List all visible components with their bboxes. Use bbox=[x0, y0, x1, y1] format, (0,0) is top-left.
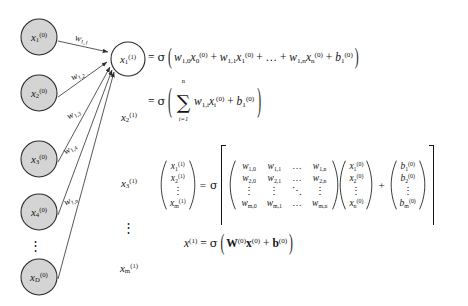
cell-x1-in: x1(0) bbox=[346, 160, 366, 173]
cell-vdots-coln: ⋮ bbox=[307, 185, 332, 198]
paren-left-bias bbox=[390, 160, 397, 210]
paren-left-lhs bbox=[160, 160, 167, 210]
cell-w-m-0: wm,0 bbox=[236, 198, 261, 211]
input-vector: x1(0) x2(0) ⋮ xn(0) bbox=[339, 160, 373, 210]
paren-right-bias bbox=[419, 160, 426, 210]
table-row: bm(0) bbox=[397, 198, 419, 211]
cell-vdots-col2: ⋮ bbox=[262, 185, 287, 198]
cell-x2-in: x2(0) bbox=[346, 173, 366, 186]
cell-w-m-1: wm,1 bbox=[262, 198, 287, 211]
edge-x4-to-h1 bbox=[58, 70, 112, 215]
cell-vdots-bias: ⋮ bbox=[397, 185, 419, 198]
edge-xD-to-h1 bbox=[58, 72, 114, 279]
cell-w-1-n: w1,n bbox=[307, 160, 332, 173]
cell-xm-out: xm(1) bbox=[167, 198, 189, 211]
node-label-x2-input: x2(0) bbox=[31, 88, 47, 99]
neural-network-figure: x1(0) x2(0) x3(0) x4(0) xD(0) ⋮ x1(1) x2… bbox=[0, 0, 468, 306]
table-row: ⋮ bbox=[346, 185, 366, 198]
weight-matrix-table: w1,0 w1,1 … w1,n w2,0 w2,1 … w2,n ⋮ ⋮ bbox=[236, 160, 332, 210]
outer-bracket-right bbox=[428, 145, 434, 225]
cell-x1-out: x1(1) bbox=[167, 160, 189, 173]
table-row: wm,0 wm,1 … wm,n bbox=[236, 198, 332, 211]
cell-x2-out: x2(1) bbox=[167, 173, 189, 186]
cell-w-2-n: w2,n bbox=[307, 173, 332, 186]
cell-w-2-1: w2,1 bbox=[262, 173, 287, 186]
table-row: w2,0 w2,1 … w2,n bbox=[236, 173, 332, 186]
cell-w-1-0: w1,0 bbox=[236, 160, 261, 173]
table-row: b1(0) bbox=[397, 160, 419, 173]
input-vector-table: x1(0) x2(0) ⋮ xn(0) bbox=[346, 160, 366, 210]
cell-vdots-col1: ⋮ bbox=[236, 185, 261, 198]
table-row: ⋮ bbox=[167, 185, 189, 198]
cell-w-1-1: w1,1 bbox=[262, 160, 287, 173]
cell-hdots-rowm: … bbox=[287, 198, 307, 211]
node-label-x3-output: x3(1) bbox=[121, 178, 137, 189]
input-layer-ellipsis: ⋮ bbox=[29, 238, 42, 254]
equation-scalar-line-1: = σ (w1,0x0(0) + w1,1x1(0) + … + w1,nxn(… bbox=[148, 52, 359, 64]
node-label-x1-output: x1(1) bbox=[120, 54, 136, 65]
node-label-x4-input: x4(0) bbox=[31, 207, 47, 218]
edge-x2-to-h1 bbox=[58, 62, 107, 97]
cell-hdots-row2: … bbox=[287, 173, 307, 186]
paren-left-weights bbox=[229, 160, 236, 210]
lhs-vector-table: x1(1) x2(1) ⋮ xm(1) bbox=[167, 160, 189, 210]
node-label-x2-output: x2(1) bbox=[121, 112, 137, 123]
paren-right-lhs bbox=[189, 160, 196, 210]
summation-operator: n ∑ i=1 bbox=[175, 93, 192, 112]
paren-right-weights bbox=[332, 160, 339, 210]
table-row: x2(0) bbox=[346, 173, 366, 186]
table-row: x2(1) bbox=[167, 173, 189, 186]
bias-vector-table: b1(0) b2(0) ⋮ bm(0) bbox=[397, 160, 419, 210]
equation-compact-line: x(1) = σ (W(0)x(0) + b(0)) bbox=[184, 238, 293, 250]
node-label-x3-input: x3(0) bbox=[31, 154, 47, 165]
output-layer-ellipsis: ⋮ bbox=[122, 220, 135, 236]
matrix-plus-sign: + bbox=[373, 180, 389, 191]
table-row: x1(0) bbox=[346, 160, 366, 173]
cell-vdots-lhs: ⋮ bbox=[167, 185, 189, 198]
table-row: xm(1) bbox=[167, 198, 189, 211]
cell-bm: bm(0) bbox=[397, 198, 419, 211]
weight-matrix: w1,0 w1,1 … w1,n w2,0 w2,1 … w2,n ⋮ ⋮ bbox=[229, 160, 339, 210]
table-row: w1,0 w1,1 … w1,n bbox=[236, 160, 332, 173]
cell-b2: b2(0) bbox=[397, 173, 419, 186]
table-row: x1(1) bbox=[167, 160, 189, 173]
cell-w-2-0: w2,0 bbox=[236, 173, 261, 186]
outer-bracket-left bbox=[221, 145, 227, 225]
node-label-xD-input: xD(0) bbox=[30, 272, 48, 283]
matrix-equals-sign: = bbox=[196, 180, 210, 191]
cell-ddots: ⋱ bbox=[287, 185, 307, 198]
cell-w-m-n: wm,n bbox=[307, 198, 332, 211]
table-row: xn(0) bbox=[346, 198, 366, 211]
bias-vector: b1(0) b2(0) ⋮ bm(0) bbox=[390, 160, 426, 210]
table-row: b2(0) bbox=[397, 173, 419, 186]
paren-left-input bbox=[339, 160, 346, 210]
node-label-x1-input: x1(0) bbox=[31, 32, 47, 43]
table-row: ⋮ ⋮ ⋱ ⋮ bbox=[236, 185, 332, 198]
table-row: ⋮ bbox=[397, 185, 419, 198]
paren-right-input bbox=[366, 160, 373, 210]
node-label-xm-output: xm(1) bbox=[120, 263, 138, 274]
cell-vdots-input: ⋮ bbox=[346, 185, 366, 198]
cell-b1: b1(0) bbox=[397, 160, 419, 173]
cell-hdots-row1: … bbox=[287, 160, 307, 173]
matrix-sigma: σ bbox=[210, 180, 218, 191]
equation-scalar-line-2: = σ ( n ∑ i=1 w1,ixi(0) + b1(0)) bbox=[148, 93, 261, 112]
cell-xn-in: xn(0) bbox=[346, 198, 366, 211]
equation-matrix-line: x1(1) x2(1) ⋮ xm(1) = σ bbox=[160, 145, 434, 225]
lhs-activation-vector: x1(1) x2(1) ⋮ xm(1) bbox=[160, 160, 196, 210]
